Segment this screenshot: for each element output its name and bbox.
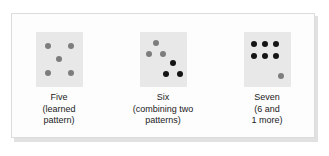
die-face-seven (244, 32, 291, 87)
die-dot (153, 40, 159, 46)
die-dot (262, 53, 268, 59)
die-dot (68, 43, 74, 49)
figure-root: Five (learned pattern) Six (combining tw… (0, 0, 329, 156)
die-face-six (140, 32, 187, 87)
die-dot (45, 70, 51, 76)
die-face-five (36, 32, 83, 87)
die-dot (68, 70, 74, 76)
dice-caption-seven: Seven (6 and 1 more) (251, 92, 282, 127)
caption-line: Five (42, 92, 75, 104)
caption-line: (6 and (251, 104, 282, 116)
die-dot (278, 73, 284, 79)
dice-caption-six: Six (combining two patterns) (133, 92, 194, 127)
dice-card-seven: Seven (6 and 1 more) (228, 32, 306, 127)
die-dot (160, 51, 166, 57)
die-dot (251, 41, 257, 47)
dice-card-six: Six (combining two patterns) (124, 32, 202, 127)
figure-panel: Five (learned pattern) Six (combining tw… (11, 13, 315, 138)
die-dot (163, 71, 169, 77)
caption-line: (combining two (133, 104, 194, 116)
die-dot (45, 43, 51, 49)
die-dot (273, 53, 279, 59)
caption-line: pattern) (42, 115, 75, 127)
caption-line: patterns) (133, 115, 194, 127)
die-dot (251, 53, 257, 59)
die-dot (170, 60, 176, 66)
die-dot (177, 71, 183, 77)
die-dot (273, 41, 279, 47)
caption-line: 1 more) (251, 115, 282, 127)
die-dot (262, 41, 268, 47)
dice-caption-five: Five (learned pattern) (42, 92, 75, 127)
dice-cards-row: Five (learned pattern) Six (combining tw… (12, 32, 314, 127)
caption-line: Six (133, 92, 194, 104)
caption-line: Seven (251, 92, 282, 104)
caption-line: (learned (42, 104, 75, 116)
die-dot (56, 56, 62, 62)
dice-card-five: Five (learned pattern) (20, 32, 98, 127)
die-dot (146, 51, 152, 57)
